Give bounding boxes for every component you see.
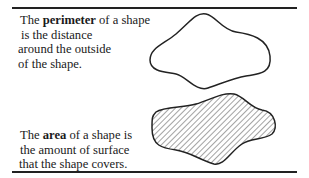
area-blob-shape bbox=[152, 94, 275, 165]
perimeter-blob-shape bbox=[150, 14, 270, 89]
shapes-illustration bbox=[0, 0, 309, 178]
